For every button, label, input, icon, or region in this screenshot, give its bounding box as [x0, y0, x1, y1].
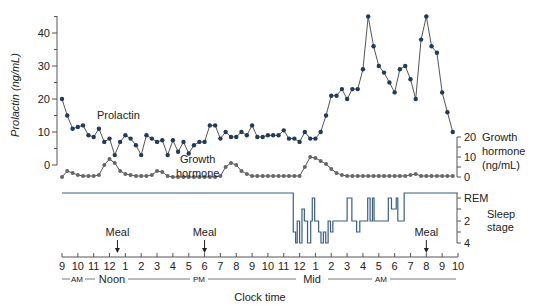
meal-annotations: MealMealMeal [106, 226, 439, 253]
svg-text:3: 3 [154, 260, 160, 272]
svg-text:11: 11 [88, 260, 99, 272]
svg-text:30: 30 [38, 60, 50, 72]
svg-text:20: 20 [464, 131, 476, 143]
svg-text:0: 0 [44, 159, 50, 171]
x-axis-title: Clock time [234, 291, 285, 303]
x-axis: 910111212345678910111212345678910 [59, 253, 464, 272]
svg-text:9: 9 [59, 260, 65, 272]
prolactin-axis-label: Prolactin (ng/mL) [9, 53, 21, 137]
gh-axis-label: (ng/mL) [482, 159, 520, 171]
svg-text:20: 20 [38, 93, 50, 105]
svg-text:Meal: Meal [106, 226, 130, 238]
svg-text:10: 10 [262, 260, 274, 272]
svg-text:0: 0 [464, 171, 470, 183]
svg-text:7: 7 [407, 260, 413, 272]
svg-text:8: 8 [233, 260, 239, 272]
svg-text:6: 6 [201, 260, 207, 272]
svg-text:REM: REM [464, 192, 488, 204]
gh-series [60, 155, 455, 179]
svg-text:2: 2 [138, 260, 144, 272]
svg-text:Meal: Meal [414, 226, 438, 238]
svg-text:12: 12 [293, 260, 305, 272]
svg-text:11: 11 [278, 260, 289, 272]
gh-axis-label: Growth [482, 131, 517, 143]
svg-text:3: 3 [344, 260, 350, 272]
svg-text:10: 10 [452, 260, 464, 272]
prolactin-y-axis: 010203040 [38, 16, 57, 171]
svg-text:2: 2 [328, 260, 334, 272]
svg-text:4: 4 [464, 237, 470, 249]
svg-text:Noon: Noon [99, 273, 125, 285]
prolactin-series-label: Prolactin [97, 109, 140, 121]
svg-text:5: 5 [376, 260, 382, 272]
svg-text:12: 12 [103, 260, 115, 272]
svg-text:AM: AM [375, 275, 387, 284]
sleep-axis-label: stage [487, 221, 514, 233]
svg-text:1: 1 [312, 260, 318, 272]
svg-text:AM: AM [71, 275, 83, 284]
svg-text:4: 4 [170, 260, 176, 272]
gh-axis-label: hormone [482, 145, 525, 157]
sleep-axis-label: Sleep [487, 208, 515, 220]
gh-series-label-2: hormone [176, 167, 219, 179]
svg-text:Meal: Meal [193, 226, 217, 238]
svg-text:1: 1 [122, 260, 128, 272]
gh-y-axis: 01020 [457, 131, 476, 183]
x-period-labels: AMNoonPMMidAM [62, 273, 456, 285]
svg-text:10: 10 [464, 151, 476, 163]
hormone-sleep-chart: 010203040 Prolactin (ng/mL) Prolactin Gr… [0, 0, 535, 306]
svg-text:PM: PM [193, 275, 205, 284]
svg-text:Mid: Mid [303, 273, 321, 285]
svg-text:9: 9 [249, 260, 255, 272]
svg-text:40: 40 [38, 27, 50, 39]
prolactin-series [60, 14, 455, 157]
svg-text:10: 10 [72, 260, 84, 272]
svg-text:8: 8 [423, 260, 429, 272]
gh-series-label-1: Growth [180, 153, 215, 165]
svg-text:9: 9 [439, 260, 445, 272]
svg-text:6: 6 [392, 260, 398, 272]
svg-text:10: 10 [38, 126, 50, 138]
sleep-y-axis: REM24 [457, 192, 488, 249]
svg-text:7: 7 [217, 260, 223, 272]
svg-text:4: 4 [360, 260, 366, 272]
svg-text:2: 2 [464, 215, 470, 227]
svg-text:5: 5 [186, 260, 192, 272]
